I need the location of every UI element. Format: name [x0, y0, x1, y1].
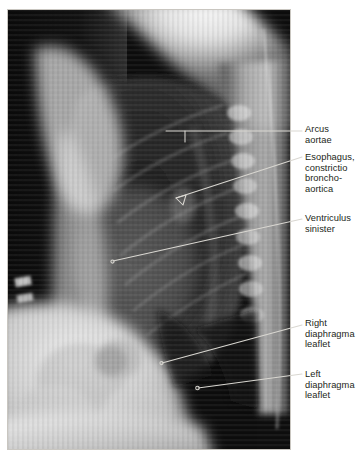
label-esophagus-constrictio-broncho-aortica: Esophagus, constrictio broncho- aortica [305, 152, 355, 194]
radiograph-image [7, 9, 291, 450]
xray-render [7, 9, 291, 450]
label-left-diaphragma-leaflet: Left diaphragma leaflet [305, 369, 355, 401]
label-ventriculus-sinister: Ventriculus sinister [305, 213, 351, 234]
label-right-diaphragma-leaflet: Right diaphragma leaflet [305, 318, 355, 350]
label-arcus-aortae: Arcus aortae [305, 124, 332, 145]
radiograph-figure: Arcus aortae Esophagus, constrictio bron… [0, 0, 359, 464]
